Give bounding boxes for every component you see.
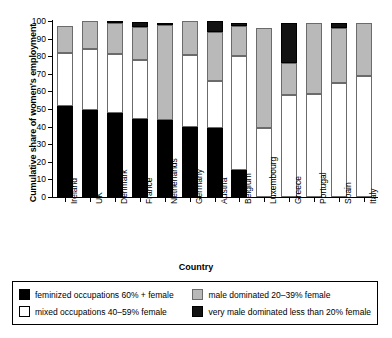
x-tick bbox=[339, 197, 340, 202]
bar-segment-mal bbox=[231, 26, 247, 56]
y-tick-label: 30 bbox=[37, 139, 46, 149]
bar-segment-mix bbox=[207, 81, 223, 129]
x-tick bbox=[289, 197, 290, 202]
legend-label: mixed occupations 40–59% female bbox=[35, 307, 167, 317]
bar-segment-vmal bbox=[281, 23, 297, 63]
x-tick bbox=[140, 197, 141, 202]
bar-segment-mix bbox=[231, 56, 247, 170]
bar-ireland[interactable] bbox=[57, 26, 73, 197]
y-tick-label: 0 bbox=[41, 192, 46, 202]
bar-segment-mal bbox=[57, 26, 73, 52]
legend-swatch-fem-icon bbox=[19, 289, 30, 300]
y-tick-label: 40 bbox=[37, 122, 46, 132]
x-label-italy: Italy bbox=[368, 188, 378, 204]
legend-item-mix[interactable]: mixed occupations 40–59% female bbox=[19, 306, 188, 317]
x-tick bbox=[165, 197, 166, 202]
y-tick-mark bbox=[48, 197, 53, 198]
bar-segment-mal bbox=[157, 25, 173, 120]
bar-greece[interactable] bbox=[281, 23, 297, 197]
legend-item-mal[interactable]: male dominated 20–39% female bbox=[192, 289, 371, 300]
bar-segment-mal bbox=[107, 23, 123, 55]
bar-belgium[interactable] bbox=[231, 23, 247, 197]
x-label-netherlands: Netherlands bbox=[169, 158, 179, 204]
legend-label: very male dominated less than 20% female bbox=[208, 307, 371, 317]
bar-segment-mal bbox=[331, 28, 347, 83]
x-label-portugal: Portugal bbox=[318, 172, 328, 204]
bar-segment-mix bbox=[107, 54, 123, 113]
bar-uk[interactable] bbox=[82, 21, 98, 197]
bar-segment-mix bbox=[132, 60, 148, 119]
x-tick bbox=[239, 197, 240, 202]
x-label-belgium: Belgium bbox=[243, 173, 253, 204]
legend-swatch-mal-icon bbox=[192, 289, 203, 300]
stacked-bar-chart: Cumulative share of women's employment 0… bbox=[0, 0, 392, 338]
y-tick-label: 10 bbox=[37, 174, 46, 184]
y-tick-label: 80 bbox=[37, 51, 46, 61]
y-tick-label: 50 bbox=[37, 104, 46, 114]
legend-item-vmal[interactable]: very male dominated less than 20% female bbox=[192, 306, 371, 317]
y-tick-label: 60 bbox=[37, 86, 46, 96]
x-axis-title: Country bbox=[0, 262, 392, 272]
bar-spain[interactable] bbox=[331, 23, 347, 197]
x-label-uk: UK bbox=[94, 192, 104, 204]
x-tick bbox=[65, 197, 66, 202]
bar-segment-mal bbox=[306, 23, 322, 94]
bar-segment-mix bbox=[57, 53, 73, 107]
y-tick-label: 100 bbox=[32, 16, 46, 26]
bar-segment-mix bbox=[182, 55, 198, 127]
x-label-denmark: Denmark bbox=[119, 170, 129, 204]
legend-swatch-vmal-icon bbox=[192, 306, 203, 317]
x-tick bbox=[90, 197, 91, 202]
bar-portugal[interactable] bbox=[306, 23, 322, 197]
bar-italy[interactable] bbox=[356, 23, 372, 197]
x-label-austria: Austria bbox=[219, 178, 229, 204]
bar-austria[interactable] bbox=[207, 21, 223, 197]
bar-segment-mal bbox=[182, 21, 198, 55]
bar-segment-mal bbox=[132, 27, 148, 60]
bar-segment-mal bbox=[256, 28, 272, 128]
bar-group bbox=[53, 21, 376, 197]
x-tick bbox=[190, 197, 191, 202]
x-tick bbox=[115, 197, 116, 202]
x-tick bbox=[364, 197, 365, 202]
bar-segment-vmal bbox=[207, 21, 223, 32]
bar-segment-mal bbox=[82, 21, 98, 49]
x-tick bbox=[264, 197, 265, 202]
bar-segment-mix bbox=[331, 83, 347, 197]
legend: feminized occupations 60% + femalemale d… bbox=[12, 281, 378, 325]
plot-area: 0102030405060708090100 bbox=[53, 21, 376, 197]
bar-segment-mal bbox=[281, 63, 297, 95]
bar-segment-mal bbox=[207, 32, 223, 81]
x-label-luxembourg: Luxembourg bbox=[268, 157, 278, 204]
x-tick bbox=[215, 197, 216, 202]
y-tick-label: 70 bbox=[37, 69, 46, 79]
bar-france[interactable] bbox=[132, 22, 148, 197]
bar-segment-mal bbox=[356, 23, 372, 76]
x-label-germany: Germany bbox=[194, 169, 204, 204]
legend-item-fem[interactable]: feminized occupations 60% + female bbox=[19, 289, 188, 300]
bar-segment-fem bbox=[82, 110, 98, 197]
bar-segment-mix bbox=[82, 49, 98, 110]
bar-segment-mix bbox=[356, 76, 372, 197]
x-label-france: France bbox=[144, 178, 154, 204]
y-tick-label: 90 bbox=[37, 34, 46, 44]
legend-label: male dominated 20–39% female bbox=[208, 290, 330, 300]
x-label-greece: Greece bbox=[293, 176, 303, 204]
y-tick: 0 bbox=[53, 197, 54, 198]
y-tick-label: 20 bbox=[37, 157, 46, 167]
x-label-spain: Spain bbox=[343, 182, 353, 204]
x-tick bbox=[314, 197, 315, 202]
x-label-ireland: Ireland bbox=[69, 178, 79, 204]
legend-label: feminized occupations 60% + female bbox=[35, 290, 174, 300]
legend-swatch-mix-icon bbox=[19, 306, 30, 317]
